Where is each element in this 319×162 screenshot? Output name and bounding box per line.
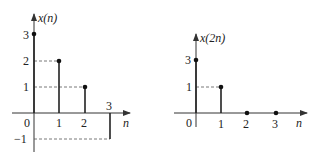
left-dot-1 bbox=[57, 59, 62, 64]
left-origin: 0 bbox=[24, 116, 30, 130]
right-xtick-1: 1 bbox=[218, 117, 224, 131]
left-dot-2 bbox=[83, 85, 88, 90]
right-xtick-2: 2 bbox=[243, 117, 249, 131]
right-chart: x(2n) n 0 1 2 3 3 1 bbox=[174, 31, 307, 131]
right-origin: 0 bbox=[186, 116, 192, 130]
left-xtick-3: 3 bbox=[106, 99, 112, 113]
left-ytick-3: 3 bbox=[23, 28, 29, 42]
left-ytick-2: 2 bbox=[23, 54, 29, 68]
figure: x(n) n 0 1 2 3 3 2 1 −1 x(2n) n 0 1 2 3 … bbox=[0, 0, 319, 162]
right-ytick-1: 1 bbox=[186, 80, 192, 94]
right-dot-2 bbox=[245, 111, 250, 116]
right-dot-3 bbox=[274, 111, 279, 116]
right-dot-0 bbox=[194, 58, 199, 63]
left-chart: x(n) n 0 1 2 3 3 2 1 −1 bbox=[12, 11, 130, 152]
left-x-label: n bbox=[123, 116, 129, 130]
left-xtick-2: 2 bbox=[81, 116, 87, 130]
right-xtick-3: 3 bbox=[272, 117, 278, 131]
right-y-label: x(2n) bbox=[199, 31, 225, 45]
right-dot-1 bbox=[219, 85, 224, 90]
left-y-label: x(n) bbox=[37, 11, 57, 25]
right-ytick-3: 3 bbox=[185, 53, 191, 67]
left-ytick-1: 1 bbox=[23, 80, 29, 94]
left-ytick-neg1: −1 bbox=[14, 132, 27, 146]
right-x-label: n bbox=[296, 116, 302, 130]
left-dot-0 bbox=[32, 32, 37, 37]
left-xtick-1: 1 bbox=[56, 116, 62, 130]
